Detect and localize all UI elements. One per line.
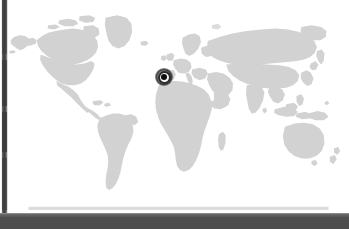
chrome-segment (2, 112, 7, 152)
world-map-canvas[interactable] (0, 0, 349, 213)
land-south-america (97, 113, 133, 190)
land-philippines (296, 94, 304, 106)
land-korea-japan (301, 70, 314, 86)
land-caribbean-2 (104, 103, 111, 107)
land-central-america (88, 108, 101, 120)
land-russia (207, 29, 317, 66)
app-window (0, 0, 349, 229)
land-africa (155, 81, 212, 172)
land-iceland (140, 41, 148, 46)
location-marker[interactable] (155, 68, 173, 86)
land-balkans (191, 68, 207, 80)
land-svalbard (212, 24, 222, 30)
chrome-segment (2, 158, 7, 210)
left-window-chrome-strip[interactable] (0, 0, 8, 213)
land-mexico (56, 81, 89, 113)
land-ireland (161, 55, 167, 61)
land-tasmania (311, 160, 317, 166)
land-australia (283, 123, 325, 159)
land-uk (166, 53, 174, 61)
chrome-segment (2, 60, 7, 106)
land-arctic-islands-1 (58, 19, 78, 26)
chrome-segment (2, 0, 7, 54)
land-sea-asia (268, 87, 285, 104)
land-alaska (11, 35, 37, 50)
map-landmasses (9, 15, 340, 190)
land-pacific-dots (324, 101, 329, 105)
land-aleutians (9, 50, 16, 53)
land-japan-n (309, 61, 318, 70)
land-antarctic-hint (28, 207, 328, 210)
land-sri-lanka (262, 108, 267, 114)
bottom-bar-highlight (0, 214, 349, 217)
bottom-status-bar[interactable] (0, 213, 349, 229)
land-madagascar (218, 132, 226, 151)
land-france-germany (173, 59, 191, 74)
land-central-asia (226, 64, 299, 89)
land-arctic-islands-3 (48, 24, 60, 29)
land-greenland (105, 15, 132, 48)
land-new-guinea (308, 111, 328, 120)
land-arctic-islands-2 (79, 15, 95, 22)
land-new-zealand-n (334, 147, 340, 155)
land-scandinavia (182, 34, 201, 56)
land-kamchatka (316, 49, 324, 64)
world-map-svg (8, 2, 349, 210)
land-india (246, 84, 264, 113)
land-new-zealand-s (330, 155, 337, 164)
